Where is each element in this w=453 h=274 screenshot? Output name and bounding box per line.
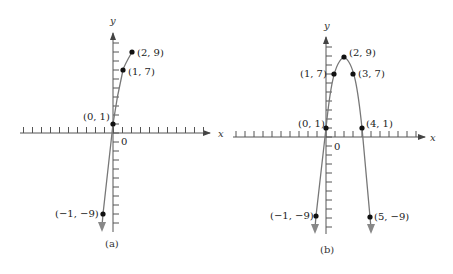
point-label-b-1-7: (1, 7) [300, 68, 327, 79]
point-label-a-2-9: (2, 9) [137, 47, 164, 58]
point-b-3-7 [350, 71, 355, 76]
point-a-neg1-neg9 [100, 211, 105, 216]
point-label-b-3-7: (3, 7) [358, 68, 385, 79]
point-b-1-7 [331, 71, 336, 76]
curve-arrow-down-icon-b-right [367, 224, 375, 234]
curve-a [102, 52, 132, 226]
curve-arrow-down-icon-b-left [311, 224, 319, 234]
point-a-0-1 [110, 121, 115, 126]
y-axis-b [326, 37, 332, 234]
curve-arrow-down-icon-a [98, 222, 106, 232]
x-axis-label-a: x [218, 128, 224, 139]
point-label-b-2-9: (2, 9) [349, 47, 376, 58]
point-b-2-9 [341, 54, 346, 59]
y-axis-label-a: y [109, 15, 116, 26]
origin-label-a: 0 [121, 136, 127, 147]
point-b-4-1 [359, 125, 364, 130]
diagram-canvas: x y 0 (2, 9) (1, 7) (0, 1) (−1, −9) (a) … [0, 0, 453, 274]
origin-label-b: 0 [334, 141, 340, 152]
point-label-a-neg1-neg9: (−1, −9) [55, 208, 99, 219]
point-a-2-9 [129, 49, 134, 54]
caption-b: (b) [320, 244, 334, 255]
y-axis-label-b: y [323, 20, 330, 31]
point-label-b-neg1-neg9: (−1, −9) [270, 210, 314, 221]
point-a-1-7 [120, 67, 125, 72]
curve-b [315, 57, 371, 228]
x-axis-a [20, 127, 210, 133]
point-b-neg1-neg9 [313, 213, 318, 218]
panel-b: x y 0 (2, 9) (1, 7) (3, 7) (0, 1) (4, 1)… [233, 20, 436, 255]
point-label-b-5-neg9: (5, −9) [374, 211, 409, 222]
x-axis-b [233, 131, 425, 137]
caption-a: (a) [105, 238, 119, 249]
point-label-a-0-1: (0, 1) [83, 111, 110, 122]
x-axis-label-b: x [430, 132, 436, 143]
point-label-b-4-1: (4, 1) [366, 118, 393, 129]
point-b-5-neg9 [367, 214, 372, 219]
y-axis-a [113, 33, 119, 232]
panel-a: x y 0 (2, 9) (1, 7) (0, 1) (−1, −9) (a) [20, 15, 224, 249]
point-label-a-1-7: (1, 7) [128, 66, 155, 77]
point-label-b-0-1: (0, 1) [298, 118, 325, 129]
